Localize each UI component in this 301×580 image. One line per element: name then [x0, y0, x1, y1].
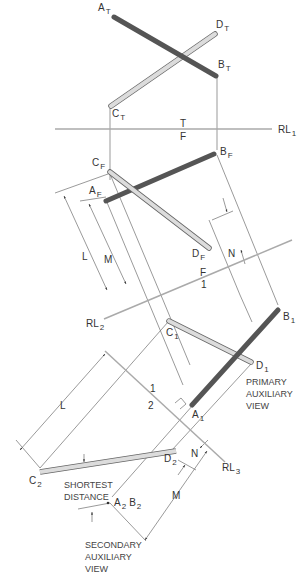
ext-d2 — [178, 460, 196, 470]
caption-secondary-1: SECONDARY — [85, 540, 142, 550]
label-rl3-top: 1 — [150, 383, 156, 394]
label-b-f: BF — [220, 146, 233, 160]
label-b-1: B1 — [283, 311, 296, 325]
label-dim-n2: N — [191, 448, 198, 459]
labels: AT DT BT CT T F RL1 CF BF AF DF L M N F … — [29, 2, 297, 574]
label-d-2: D2 — [164, 453, 177, 467]
caption-shortest-1: SHORTEST — [64, 480, 113, 490]
projector-d1 — [172, 364, 251, 450]
label-dim-m: M — [104, 254, 112, 265]
top-view — [110, 17, 217, 180]
dim-n2-arrow-top — [200, 440, 208, 448]
label-c-f: CF — [92, 157, 105, 171]
label-a-f: AF — [89, 185, 102, 199]
label-d-1: D1 — [256, 360, 269, 374]
ext-c2 — [16, 440, 40, 468]
line-cd-aux2 — [40, 451, 176, 472]
ext-a2-left — [78, 503, 110, 509]
dim-line-m — [89, 204, 126, 284]
caption-secondary-3: VIEW — [85, 564, 109, 574]
label-dim-m2: M — [172, 490, 180, 501]
label-c-t: CT — [112, 108, 125, 122]
label-rl1-top: T — [180, 118, 186, 129]
ext-af — [80, 197, 106, 201]
caption-primary-3: VIEW — [246, 401, 270, 411]
projector-df — [209, 220, 240, 295]
projector-df-cont — [240, 295, 252, 322]
label-dim-l2: L — [60, 400, 66, 411]
label-dim-l: L — [82, 251, 88, 262]
label-b-t: BT — [218, 59, 231, 73]
line-ab-front — [106, 154, 214, 201]
projector-bf — [217, 155, 278, 305]
label-a2-b2: A2B2 — [114, 497, 142, 511]
dim-line-l — [64, 196, 107, 290]
label-rl1: RL1 — [278, 124, 297, 138]
label-rl2-top: F — [200, 267, 206, 278]
dim-n2-arrow-bottom — [178, 465, 185, 475]
caption-shortest-2: DISTANCE — [64, 492, 109, 502]
label-a-t: AT — [98, 2, 111, 16]
point-a2-b2 — [107, 502, 110, 505]
label-d-f: DF — [192, 248, 205, 262]
label-dim-n: N — [228, 248, 235, 259]
projector-c1 — [40, 322, 168, 468]
projector-af — [106, 200, 183, 385]
caption-primary-1: PRIMARY — [246, 377, 287, 387]
primary-auxiliary-view — [16, 310, 278, 541]
dim-n-arrow-top — [223, 198, 227, 212]
right-angle-mark — [175, 398, 186, 409]
ext-df — [212, 211, 233, 220]
reference-line-3 — [105, 351, 225, 462]
projector-a1 — [112, 405, 193, 497]
label-c-1: C1 — [166, 327, 179, 341]
label-rl1-bottom: F — [180, 131, 186, 142]
caption-secondary-2: AUXILIARY — [85, 552, 132, 562]
label-c-2: C2 — [29, 475, 42, 489]
label-rl2-bottom: 1 — [201, 279, 207, 290]
label-d-t: DT — [216, 19, 229, 33]
label-rl2: RL2 — [86, 318, 105, 332]
skew-lines-diagram: AT DT BT CT T F RL1 CF BF AF DF L M N F … — [0, 0, 301, 580]
label-rl3-bottom: 2 — [148, 400, 154, 411]
caption-primary-2: AUXILIARY — [246, 389, 293, 399]
label-rl3: RL3 — [222, 462, 241, 476]
